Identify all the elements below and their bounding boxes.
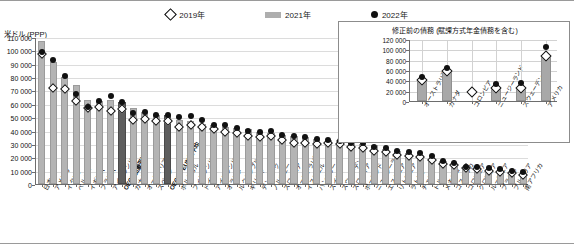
y-tick-label: 30 000 xyxy=(11,141,32,148)
diamond-outline-icon xyxy=(164,8,177,21)
marker-2022 xyxy=(39,49,45,55)
bar-group: ドイツ xyxy=(199,38,206,184)
legend-item-2022: 2022年 xyxy=(371,9,408,20)
inset-gridline xyxy=(410,50,557,51)
marker-2022 xyxy=(451,160,457,166)
inset-gridline xyxy=(410,71,557,72)
inset-title: 修正前の債務 (賦課方式年金債務を含む) xyxy=(339,25,571,35)
inset-y-tick-label: 120 000 xyxy=(383,37,407,44)
bar-group: フィンランド xyxy=(187,38,194,184)
bar-group: ギリシャ xyxy=(245,38,252,184)
inset-y-tick-mark xyxy=(406,102,409,103)
marker-2022 xyxy=(130,110,136,116)
bar-group: フランス xyxy=(96,38,103,184)
marker-2022 xyxy=(211,122,217,128)
y-tick-label: 110 000 xyxy=(7,35,32,42)
bar-group: アイルランド xyxy=(107,38,114,184)
marker-2022 xyxy=(165,112,171,118)
bar-group: アメリカ xyxy=(50,38,57,184)
bar-group: ノルウェー xyxy=(267,38,274,184)
inset-chart: 修正前の債務 (賦課方式年金債務を含む) 020 00040 00060 000… xyxy=(338,21,570,143)
marker-2022 xyxy=(50,57,56,63)
y-tick-label: 20 000 xyxy=(11,155,32,162)
marker-2022 xyxy=(199,117,205,123)
inset-marker-2022 xyxy=(419,74,425,80)
marker-2022 xyxy=(96,98,102,104)
marker-2022 xyxy=(497,166,503,172)
marker-2022 xyxy=(245,128,251,134)
bar-group: イスラエル xyxy=(302,38,309,184)
marker-2022 xyxy=(119,99,125,105)
marker-2022 xyxy=(302,134,308,140)
bar-group: 日本 xyxy=(38,38,45,184)
bar-2021 xyxy=(96,101,103,184)
inset-bar-group: カナダ xyxy=(442,40,452,101)
marker-2022 xyxy=(257,129,263,135)
marker-2022 xyxy=(394,148,400,154)
y-tick-label: 40 000 xyxy=(11,128,32,135)
marker-2022 xyxy=(279,132,285,138)
marker-2022 xyxy=(417,150,423,156)
marker-2022 xyxy=(474,164,480,170)
inset-bar-group: ニュージーランド xyxy=(491,40,501,101)
marker-2022 xyxy=(383,145,389,151)
inset-y-tick-label: 100 000 xyxy=(383,47,407,54)
marker-2022 xyxy=(440,158,446,164)
inset-y-tick-label: 20 000 xyxy=(386,88,406,95)
bar-group: OECD加重平均 xyxy=(118,38,125,184)
marker-2022 xyxy=(325,137,331,143)
bar-2021 xyxy=(38,41,45,184)
legend-item-2019: 2019年 xyxy=(166,9,205,20)
bar-group: オランダ xyxy=(222,38,229,184)
gray-bar-icon xyxy=(265,12,281,18)
marker-2022 xyxy=(153,112,159,118)
marker-2022 xyxy=(509,168,515,174)
marker-2022 xyxy=(234,125,240,131)
marker-2022 xyxy=(188,113,194,119)
bar-group: スイス xyxy=(325,38,332,184)
inset-plot-area: オーストラリアカナダコロンビアニュージーランドスウェーデンアメリカ xyxy=(409,40,557,102)
bar-group: スペイン xyxy=(153,38,160,184)
legend-label-2022: 2022年 xyxy=(382,9,408,20)
bar-group: デンマーク xyxy=(256,38,263,184)
bar-group: ポルトガル xyxy=(176,38,183,184)
inset-y-tick-label: 80 000 xyxy=(386,57,406,64)
inset-marker-2022 xyxy=(444,65,450,71)
bar-2021 xyxy=(118,102,125,184)
marker-2022 xyxy=(291,133,297,139)
marker-2022 xyxy=(73,91,79,97)
inset-bar-group: アメリカ xyxy=(541,40,551,101)
inset-y-tick-label: 40 000 xyxy=(386,78,406,85)
marker-2022 xyxy=(314,136,320,142)
y-tick-mark xyxy=(32,185,35,186)
bar-2021 xyxy=(199,124,206,184)
marker-2022 xyxy=(222,122,228,128)
bar-group: イギリス xyxy=(84,38,91,184)
inset-bar-group: コロンビア xyxy=(467,40,477,101)
marker-2022 xyxy=(406,149,412,155)
bar-2021 xyxy=(50,62,57,184)
inset-y-tick-label: 60 000 xyxy=(386,68,406,75)
marker-2022 xyxy=(429,153,435,159)
y-axis-ticks: 010 00020 00030 00040 00050 00060 00070 … xyxy=(0,38,35,185)
marker-2022 xyxy=(176,114,182,120)
black-dot-icon xyxy=(371,11,378,18)
y-tick-label: 80 000 xyxy=(11,75,32,82)
bar-2021 xyxy=(187,121,194,184)
bar-group: オーストリア xyxy=(141,38,148,184)
bar-group: ルクセンブルク xyxy=(233,38,240,184)
y-tick-label: 70 000 xyxy=(11,88,32,95)
marker-2022 xyxy=(62,73,68,79)
marker-2022 xyxy=(486,165,492,171)
marker-2022 xyxy=(463,164,469,170)
marker-2022 xyxy=(108,93,114,99)
inset-gridline xyxy=(410,61,557,62)
legend-item-2021: 2021年 xyxy=(265,9,311,20)
y-tick-label: 90 000 xyxy=(11,61,32,68)
bar-group: カナダ xyxy=(130,38,137,184)
inset-gridline xyxy=(410,40,557,41)
marker-2022 xyxy=(142,109,148,115)
inset-marker-2022 xyxy=(518,80,524,86)
inset-bar-group: オーストラリア xyxy=(417,40,427,101)
bar-group: イタリア xyxy=(61,38,68,184)
